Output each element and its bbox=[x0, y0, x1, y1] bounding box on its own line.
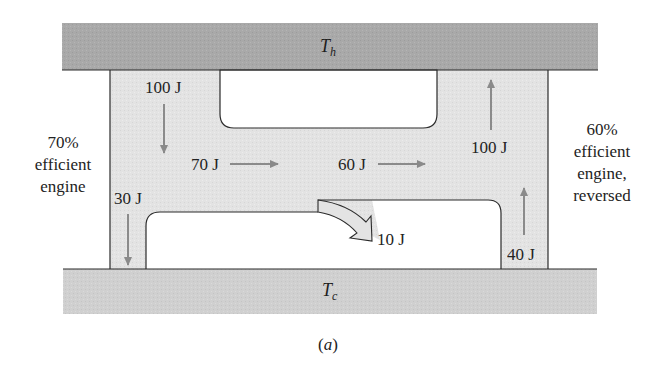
left-heat-in-label: 100 J bbox=[145, 79, 181, 96]
cold-reservoir-label: Tc bbox=[322, 280, 337, 304]
right-work-in-label: 60 J bbox=[338, 156, 366, 173]
left-engine-line-1: 70% bbox=[18, 132, 108, 154]
left-engine-line-3: engine bbox=[18, 176, 108, 198]
right-engine-description: 60% efficient engine, reversed bbox=[552, 119, 652, 207]
right-engine-line-1: 60% bbox=[552, 119, 652, 141]
hot-subscript: h bbox=[330, 45, 336, 59]
top-cutout bbox=[220, 70, 437, 128]
right-engine-line-3: engine, bbox=[552, 163, 652, 185]
left-engine-description: 70% efficient engine bbox=[18, 132, 108, 198]
figure-caption: (a) bbox=[318, 335, 338, 355]
right-engine-line-2: efficient bbox=[552, 141, 652, 163]
right-engine-line-4: reversed bbox=[552, 185, 652, 207]
cold-symbol: T bbox=[322, 280, 332, 300]
left-work-out-label: 70 J bbox=[191, 156, 219, 173]
cold-subscript: c bbox=[332, 289, 337, 303]
left-engine-line-2: efficient bbox=[18, 154, 108, 176]
excess-work-label: 10 J bbox=[377, 231, 405, 248]
heat-engine-diagram: Th Tc 100 J 70 J 30 J 60 J 100 J 40 J 10… bbox=[0, 0, 658, 372]
left-heat-out-label: 30 J bbox=[114, 190, 142, 207]
right-heat-in-label: 40 J bbox=[507, 246, 535, 263]
hot-symbol: T bbox=[320, 36, 330, 56]
right-heat-out-label: 100 J bbox=[471, 139, 507, 156]
caption-letter: a bbox=[324, 335, 333, 354]
hot-reservoir-label: Th bbox=[320, 36, 336, 60]
